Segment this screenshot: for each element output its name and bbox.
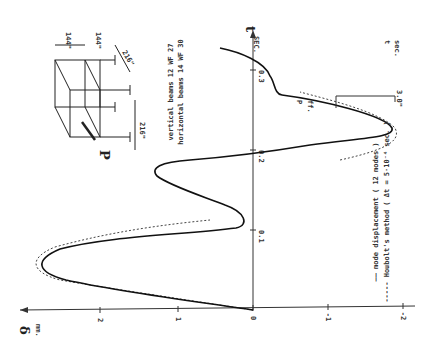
time-axis-label: t — [243, 26, 258, 32]
load-p-label: P — [97, 150, 112, 160]
tick-label: -2 — [399, 312, 407, 320]
time-unit: SEC. — [252, 36, 260, 53]
delta-axis: 2 1 0 -1 -2 δ mm. — [17, 303, 415, 337]
tick-label: 0.3 — [257, 70, 265, 83]
tick-label: 0.1 — [257, 230, 265, 243]
tick-label: 2 — [96, 318, 104, 322]
inset-value-label: 3.0" — [395, 90, 403, 107]
inset-p-label: P — [295, 100, 303, 104]
dimension-label: 216" — [138, 122, 146, 139]
tick-label: -1 — [324, 313, 332, 321]
inset-ff-label: ff. — [306, 100, 314, 113]
dimension-label: 144" — [64, 32, 72, 49]
chart-canvas: 2 1 0 -1 -2 δ mm. 0.1 0.2 0.3 t SEC. — [0, 0, 443, 349]
inset-t-label: t — [383, 40, 391, 44]
time-axis: 0.1 0.2 0.3 t SEC. — [243, 26, 265, 310]
inset-sec-label: sec. — [393, 40, 401, 57]
legend-solid: —— mode displacement ( 12 modes ) — [372, 142, 380, 281]
mode-displacement-series — [42, 48, 392, 310]
load-inset — [336, 96, 395, 108]
delta-unit: mm. — [34, 324, 42, 337]
legend-dashed: ----- Houbolt's method ( Δt = 5·10⁻⁴ sec… — [383, 121, 391, 302]
beam-vertical-label: vertical beams 12 WF 27 — [167, 44, 175, 141]
tick-label: 0 — [249, 316, 257, 320]
delta-axis-label: δ — [17, 326, 32, 335]
frame-structure-diagram — [55, 45, 135, 150]
dimension-label: 144" — [94, 32, 102, 49]
beam-horizontal-label: horizontal beams 14 WF 30 — [177, 39, 185, 144]
tick-label: 1 — [174, 317, 182, 321]
